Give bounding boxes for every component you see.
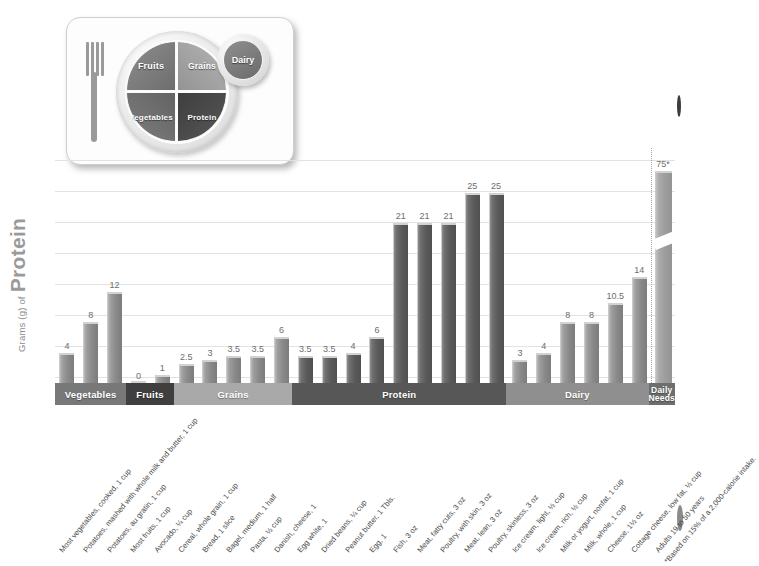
bar-group: 6 [365, 160, 389, 383]
bar-value-label: 3.5 [299, 344, 312, 354]
bar-value-label: 3 [517, 348, 522, 358]
category-band-label: Dairy [565, 389, 590, 400]
x-axis-tick-label: Fish, 3 oz [392, 524, 420, 555]
bar [59, 353, 74, 383]
bar [250, 356, 265, 383]
bar-value-label: 6 [374, 325, 379, 335]
bar-group: 21 [437, 160, 461, 383]
bar [107, 292, 122, 383]
bar [417, 223, 432, 383]
bar [346, 353, 361, 383]
bar-value-label: 4 [541, 341, 546, 351]
page-edge-artifact-top [677, 95, 681, 117]
category-band-grains: Grains [174, 383, 293, 405]
plate-section-protein-label: Protein [188, 113, 217, 122]
bar-series: 4812012.533.53.563.53.546212121252534881… [55, 160, 675, 383]
plate-section-dairy-label: Dairy [232, 55, 255, 65]
bar-value-label: 6 [279, 325, 284, 335]
bar-value-label: 3.5 [323, 344, 336, 354]
bar-group: 4 [55, 160, 79, 383]
bar-value-label: 21 [396, 211, 406, 221]
bar-value-label: 21 [443, 211, 453, 221]
category-band-daily-needs: DailyNeeds [649, 383, 676, 405]
bar-value-label: 8 [565, 310, 570, 320]
bar-group: 6 [270, 160, 294, 383]
plate-section-vegetables: Vegetables [126, 92, 176, 142]
bar-value-label: 3.5 [228, 344, 241, 354]
bar-value-label: 10.5 [607, 291, 625, 301]
category-band-fruits: Fruits [126, 383, 173, 405]
x-axis-tick-labels: Most vegetables, cooked, 1 cupPotatoes, … [55, 405, 675, 555]
bar-group: 3.5 [222, 160, 246, 383]
category-band-label: Fruits [136, 389, 164, 400]
bar-group: 8 [580, 160, 604, 383]
category-band-protein: Protein [292, 383, 506, 405]
bar [322, 356, 337, 383]
bar [655, 171, 672, 383]
bar [536, 353, 551, 383]
bar-value-label: 2.5 [180, 352, 193, 362]
category-band-dairy: Dairy [506, 383, 648, 405]
bar [584, 322, 599, 383]
bar [83, 322, 98, 383]
bar-group: 10.5 [603, 160, 627, 383]
fork-icon [85, 42, 103, 142]
bar-group: 3.5 [293, 160, 317, 383]
plate-section-fruits: Fruits [126, 41, 176, 91]
bar-group: 1 [150, 160, 174, 383]
bar [155, 375, 170, 383]
category-band-vegetables: Vegetables [55, 383, 126, 405]
bar [393, 223, 408, 383]
bar [202, 360, 217, 383]
y-axis-title-prefix: Grams (g) of [16, 296, 27, 352]
bar-value-label: 12 [110, 280, 120, 290]
bar-group: 8 [79, 160, 103, 383]
bar-value-label: 4 [64, 341, 69, 351]
bar [274, 337, 289, 383]
bar-group: 12 [103, 160, 127, 383]
category-band: VegetablesFruitsGrainsProteinDairyDailyN… [55, 383, 675, 405]
bar-group: 0 [127, 160, 151, 383]
bar-group: 21 [389, 160, 413, 383]
bar-value-label: 3.5 [251, 344, 264, 354]
bar [632, 277, 647, 383]
category-band-label: Grains [217, 389, 248, 400]
bar-value-label: 8 [589, 310, 594, 320]
bar-value-label: 25 [491, 181, 501, 191]
bar-group: 21 [413, 160, 437, 383]
daily-needs-divider [651, 148, 652, 383]
bar-group: 25 [460, 160, 484, 383]
bar-group: 4 [341, 160, 365, 383]
bar-group: 75* [651, 160, 675, 383]
bar-group: 14 [627, 160, 651, 383]
x-axis-tick-label: Egg, 1 [368, 532, 389, 555]
y-axis-title: Grams (g) of Protein [6, 152, 36, 352]
plate-section-fruits-label: Fruits [138, 61, 164, 71]
bar-group: 3 [508, 160, 532, 383]
bar-group: 25 [484, 160, 508, 383]
category-band-label: Needs [649, 394, 676, 403]
bar [298, 356, 313, 383]
bar-group: 3 [198, 160, 222, 383]
bar-value-label: 1 [160, 363, 165, 373]
bar-value-label: 4 [351, 341, 356, 351]
bar-group: 3.5 [317, 160, 341, 383]
bar-group: 8 [556, 160, 580, 383]
bar-value-label: 0 [136, 371, 141, 381]
category-band-label: Vegetables [65, 389, 117, 400]
bar-group: 4 [532, 160, 556, 383]
plate-section-vegetables-label: Vegetables [129, 113, 173, 122]
plate-section-grains-label: Grains [188, 61, 216, 71]
bar-value-label: 75* [656, 159, 670, 169]
myplate-dairy-cup: Dairy [217, 34, 269, 86]
bar [226, 356, 241, 383]
bar [441, 223, 456, 383]
bar [608, 303, 623, 383]
bar-value-label: 8 [88, 310, 93, 320]
plate-section-protein: Protein [177, 92, 227, 142]
bar [560, 322, 575, 383]
bar [369, 337, 384, 383]
bar-value-label: 3 [207, 348, 212, 358]
protein-bar-chart: Grams (g) of Protein 4812012.533.53.563.… [0, 160, 686, 400]
y-axis-title-main: Protein [6, 218, 30, 292]
